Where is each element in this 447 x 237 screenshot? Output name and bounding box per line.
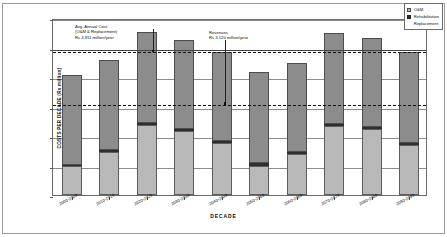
bar-segment-rehabilitation bbox=[174, 129, 194, 131]
bar-segment-replacement bbox=[287, 63, 307, 152]
bar-segment-rehabilitation bbox=[249, 163, 269, 165]
annotation-avg-leader-marker bbox=[152, 50, 154, 52]
bar-segment-rehabilitation bbox=[324, 124, 344, 126]
bar-segment-rehabilitation bbox=[399, 143, 419, 145]
y-tick-mark bbox=[50, 20, 53, 21]
legend-label: Rehabilitation bbox=[414, 14, 439, 19]
annotation-revenues: Revenues Rs 3,120 million/year bbox=[209, 30, 248, 41]
bar-segment-om bbox=[137, 125, 157, 195]
bar-segment-replacement bbox=[62, 75, 82, 165]
plot-area: 010,00020,00030,00040,00050,00060,000 20… bbox=[52, 19, 427, 196]
legend-item: O&M bbox=[407, 6, 439, 13]
bar-segment-om bbox=[174, 131, 194, 195]
bar-segment-replacement bbox=[249, 72, 269, 163]
chart-screenshot: 010,00020,00030,00040,00050,00060,000 20… bbox=[0, 0, 447, 237]
bar-segment-om bbox=[324, 126, 344, 195]
y-tick-mark bbox=[50, 109, 53, 110]
bar-segment-rehabilitation bbox=[287, 152, 307, 154]
gridline bbox=[53, 20, 426, 21]
legend-item: Rehabilitation bbox=[407, 13, 439, 20]
annotation-revenues-leader-line bbox=[225, 40, 226, 104]
legend-label: Replacement bbox=[414, 21, 439, 26]
bar-segment-om bbox=[399, 145, 419, 195]
legend-label: O&M bbox=[414, 7, 424, 12]
bar-segment-om bbox=[99, 152, 119, 195]
y-tick-mark bbox=[50, 168, 53, 169]
bar-segment-rehabilitation bbox=[362, 127, 382, 129]
annotation-revenues-line-2: Rs 3,120 million/year bbox=[209, 35, 248, 40]
bar-segment-rehabilitation bbox=[137, 123, 157, 125]
reference-line-avg-annual-cost-upper bbox=[53, 50, 426, 51]
bar-segment-om bbox=[212, 143, 232, 195]
legend-item: Replacement bbox=[407, 20, 439, 27]
bar-segment-replacement bbox=[399, 52, 419, 143]
y-tick-mark bbox=[50, 79, 53, 80]
bar-segment-om bbox=[249, 166, 269, 196]
bar-segment-replacement bbox=[212, 52, 232, 141]
reference-line-avg-annual-cost bbox=[53, 52, 426, 53]
y-axis-title: COSTS PER DECADE (Rs million) bbox=[57, 67, 62, 148]
bar-segment-rehabilitation bbox=[62, 165, 82, 167]
bar-segment-om bbox=[62, 166, 82, 195]
bar-segment-rehabilitation bbox=[99, 150, 119, 152]
y-tick-mark bbox=[50, 50, 53, 51]
legend-swatch-rehabilitation bbox=[407, 15, 411, 19]
bar-segment-om bbox=[287, 154, 307, 195]
annotation-avg-line-3: Rs 4,911 million/year bbox=[75, 35, 117, 40]
legend-swatch-replacement bbox=[407, 22, 411, 26]
reference-line-revenues bbox=[53, 105, 426, 106]
y-tick-mark bbox=[50, 197, 53, 198]
bar-segment-replacement bbox=[324, 33, 344, 123]
bar-segment-rehabilitation bbox=[212, 141, 232, 143]
bar-segment-om bbox=[362, 129, 382, 195]
x-axis-title: DECADE bbox=[0, 213, 447, 219]
legend: O&MRehabilitationReplacement bbox=[404, 3, 443, 30]
y-tick-mark bbox=[50, 138, 53, 139]
annotation-avg-annual-cost: Avg. Annual Cost (O&M & Replacement) Rs … bbox=[75, 24, 117, 40]
annotation-avg-leader-line bbox=[153, 29, 154, 51]
legend-swatch-om bbox=[407, 8, 411, 12]
annotation-revenues-leader-marker bbox=[224, 102, 226, 104]
